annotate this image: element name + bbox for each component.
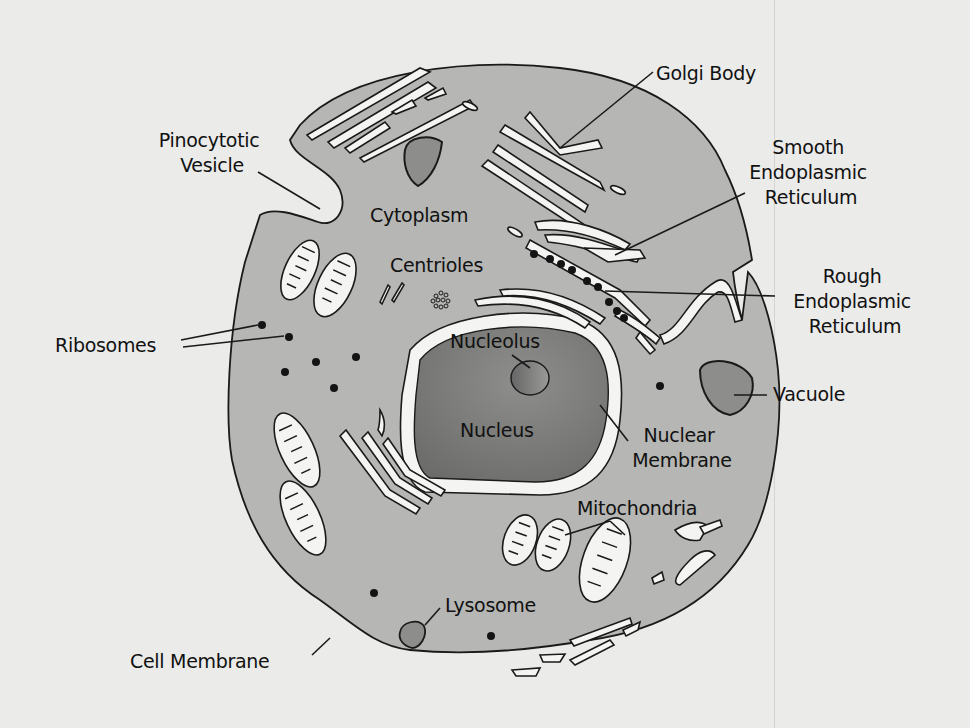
label-golgi-body: Golgi Body [656, 62, 756, 84]
label-cell-membrane: Cell Membrane [130, 650, 270, 672]
cell-diagram: Golgi Body Smooth Endoplasmic Reticulum … [0, 0, 970, 728]
label-lysosome: Lysosome [445, 594, 536, 616]
label-centrioles: Centrioles [390, 254, 483, 276]
label-cytoplasm: Cytoplasm [370, 204, 468, 226]
label-nucleus: Nucleus [460, 419, 534, 441]
label-vacuole: Vacuole [773, 383, 845, 405]
lysosome [400, 622, 425, 648]
label-smooth-er: Smooth Endoplasmic Reticulum [749, 136, 872, 208]
nucleolus [511, 361, 549, 395]
label-mitochondria: Mitochondria [577, 497, 697, 519]
label-rough-er: Rough Endoplasmic Reticulum [793, 265, 916, 337]
label-nucleolus: Nucleolus [450, 330, 540, 352]
label-pinocytotic-vesicle: Pinocytotic Vesicle [159, 129, 265, 176]
label-ribosomes: Ribosomes [55, 334, 156, 356]
